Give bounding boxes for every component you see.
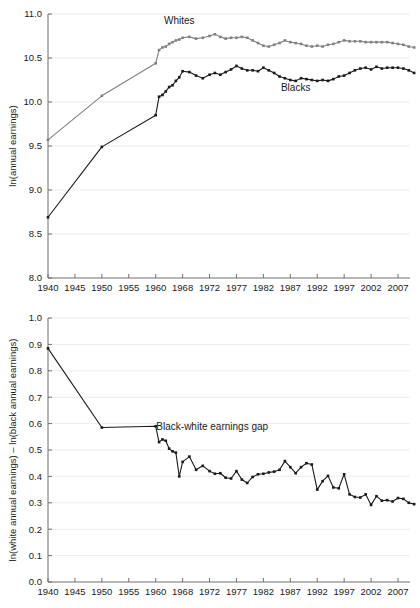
data-point [278, 75, 281, 78]
x-tick-label: 1987 [280, 282, 301, 293]
data-point [273, 72, 276, 75]
data-point [332, 43, 335, 46]
data-point [164, 90, 167, 93]
data-point [284, 460, 287, 463]
data-point [158, 441, 161, 444]
data-point [241, 36, 244, 39]
x-tick-label: 2007 [387, 282, 408, 293]
data-point [154, 62, 157, 65]
x-tick-label: 1940 [37, 282, 58, 293]
data-point [284, 77, 287, 80]
data-point [397, 66, 400, 69]
data-point [381, 41, 384, 44]
data-point [332, 78, 335, 81]
data-point [195, 37, 198, 40]
y-tick-label: 0.3 [29, 497, 42, 508]
data-point [224, 37, 227, 40]
data-point [354, 496, 357, 499]
data-point [241, 478, 244, 481]
x-tick-label: 2007 [387, 586, 408, 597]
data-point [370, 68, 373, 71]
data-point [251, 69, 254, 72]
series-line-whites [48, 34, 414, 140]
data-point [294, 472, 297, 475]
data-point [381, 67, 384, 70]
data-point [154, 114, 157, 117]
x-tick-label: 1972 [199, 586, 220, 597]
x-tick-label: 1982 [253, 282, 274, 293]
x-tick-label: 1950 [91, 586, 112, 597]
annotations: WhitesBlacks [164, 15, 310, 94]
x-axis-ticks: 1940194519501955196019681972197719821987… [37, 274, 408, 293]
data-point [311, 45, 314, 48]
data-point [359, 40, 362, 43]
data-point [101, 426, 104, 429]
data-point [386, 41, 389, 44]
data-point [386, 66, 389, 69]
data-point [168, 86, 171, 89]
series-annotation: Blacks [281, 82, 310, 93]
x-tick-label: 2002 [361, 282, 382, 293]
data-point [278, 42, 281, 45]
data-point [246, 69, 249, 72]
data-point [337, 41, 340, 44]
data-point [178, 76, 181, 79]
data-point [364, 41, 367, 44]
data-point [214, 72, 217, 75]
data-point [175, 80, 178, 83]
data-point [246, 482, 249, 485]
data-point [175, 451, 178, 454]
data-point [375, 66, 378, 69]
data-point [202, 36, 205, 39]
x-tick-label: 1977 [226, 282, 247, 293]
data-point [375, 41, 378, 44]
data-point [168, 447, 171, 450]
y-axis-title: ln(white annual earnings) – ln(black ann… [7, 339, 18, 562]
series-group [47, 33, 416, 219]
annotations: Black-white earnings gap [156, 421, 268, 432]
earnings-gap-panel: 0.00.10.20.30.40.50.60.70.80.91.01940194… [0, 304, 420, 608]
x-tick-label: 1992 [307, 282, 328, 293]
data-point [188, 36, 191, 39]
y-axis-title: ln(annual earnings) [7, 105, 18, 186]
data-point [305, 44, 308, 47]
data-point [241, 67, 244, 70]
data-point [337, 487, 340, 490]
data-point [101, 146, 104, 149]
data-point [284, 39, 287, 42]
data-point [214, 472, 217, 475]
data-point [381, 499, 384, 502]
data-point [202, 77, 205, 80]
data-point [251, 39, 254, 42]
data-point [262, 66, 265, 69]
data-point [370, 41, 373, 44]
data-point [332, 486, 335, 489]
series-line-blacks [48, 66, 414, 217]
data-point [208, 73, 211, 76]
data-point [354, 69, 357, 72]
data-point [251, 476, 254, 479]
data-point [235, 65, 238, 68]
data-point [208, 35, 211, 38]
data-point [413, 46, 416, 49]
data-point [321, 79, 324, 82]
data-point [267, 69, 270, 72]
data-point [230, 477, 233, 480]
data-point [161, 46, 164, 49]
x-tick-label: 1960 [145, 586, 166, 597]
x-tick-label: 1945 [64, 586, 85, 597]
data-point [47, 216, 50, 219]
data-point [289, 41, 292, 44]
x-tick-label: 1955 [118, 282, 139, 293]
data-point [305, 78, 308, 81]
y-tick-label: 0.9 [29, 339, 42, 350]
data-point [164, 45, 167, 48]
data-point [386, 499, 389, 502]
data-point [321, 45, 324, 48]
data-point [343, 74, 346, 77]
data-point [267, 471, 270, 474]
data-point [364, 493, 367, 496]
series-annotation: Whites [164, 15, 195, 26]
data-point [300, 466, 303, 469]
data-point [181, 70, 184, 73]
